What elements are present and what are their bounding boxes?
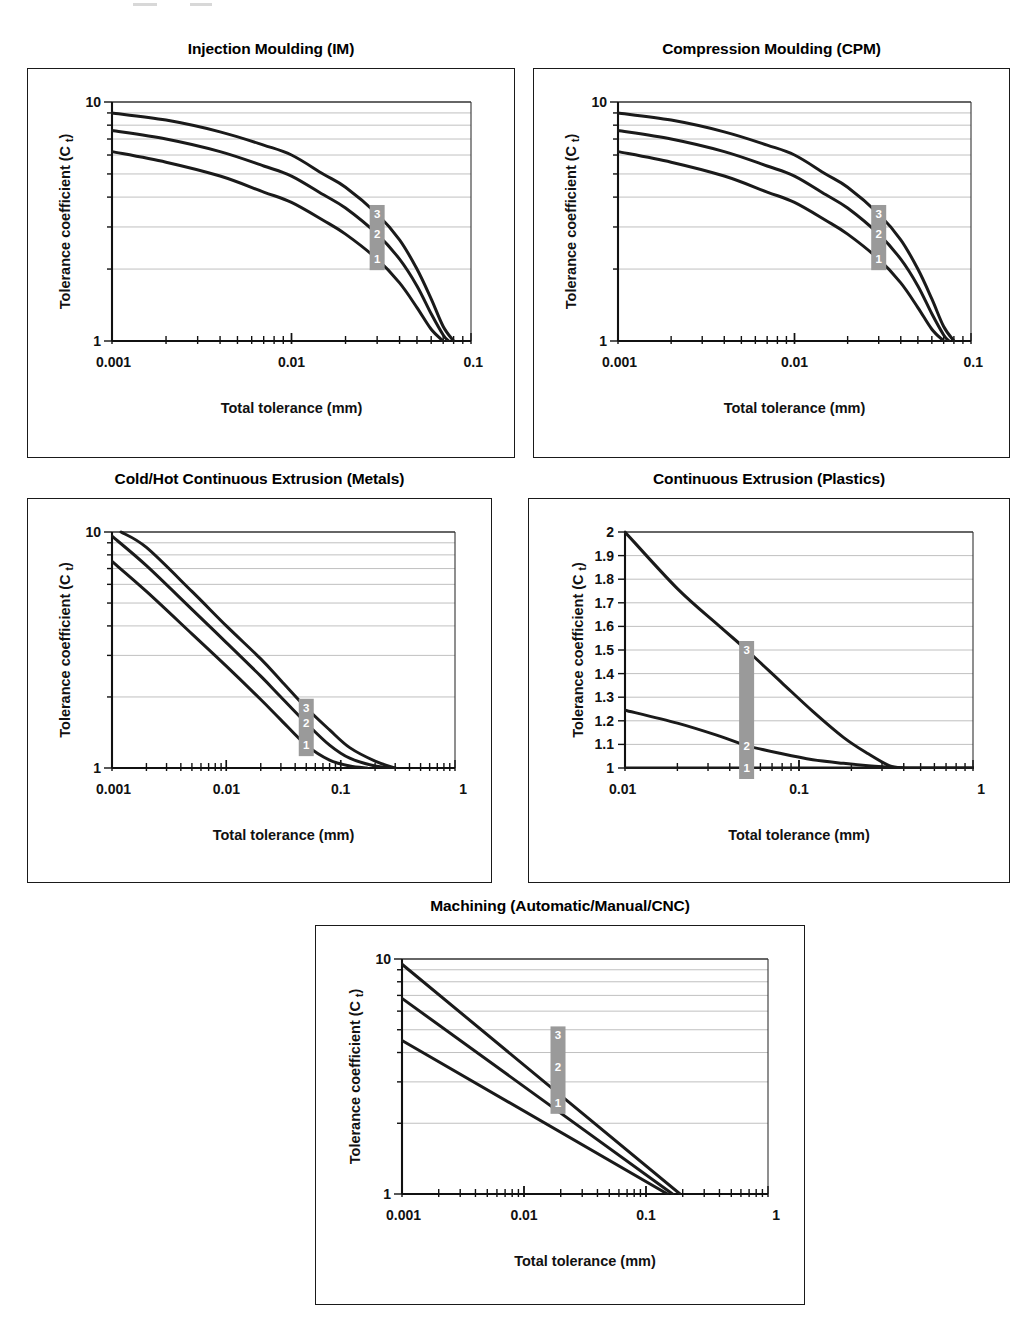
chart-title-compression-moulding: Compression Moulding (CPM) [533,40,1010,58]
y-tick-label: 1.6 [595,618,615,634]
series-marker-label-3: 3 [555,1029,561,1041]
y-axis-title: Tolerance coefficient (C t) [570,562,588,738]
x-tick-label: 0.01 [510,1207,537,1223]
x-tick-label: 0.001 [96,354,131,370]
y-tick-label: 1.4 [595,666,615,682]
series-marker-label-3: 3 [303,702,309,714]
chart-frame-machining: 1100.0010.010.11Total tolerance (mm)Tole… [315,925,805,1305]
x-tick-label: 1 [459,781,467,797]
y-tick-label: 10 [85,94,101,110]
y-tick-label: 10 [591,94,607,110]
series-marker-label-2: 2 [555,1061,561,1073]
y-tick-label: 1 [599,333,607,349]
x-tick-label: 0.1 [964,354,984,370]
series-line-2 [625,710,973,768]
chart-title-injection-moulding: Injection Moulding (IM) [27,40,515,58]
chart-title-continuous-extrusion-metals: Cold/Hot Continuous Extrusion (Metals) [27,470,492,488]
series-line-3 [402,964,680,1194]
y-tick-label: 1 [93,760,101,776]
y-tick-label: 1 [383,1186,391,1202]
series-line-1 [618,152,944,341]
chart-series-group [112,532,395,768]
y-axis-title: Tolerance coefficient (C t) [57,134,75,310]
x-tick-label: 0.1 [789,781,809,797]
series-marker-label-2: 2 [743,740,749,752]
y-tick-label: 1.2 [595,713,615,729]
series-marker-label-2: 2 [876,228,882,240]
y-tick-label: 1.9 [595,548,615,564]
y-tick-label: 10 [375,951,391,967]
x-tick-label: 0.001 [96,781,131,797]
x-tick-label: 1 [977,781,985,797]
y-axis-title: Tolerance coefficient (C t) [57,562,75,738]
y-axis-title: Tolerance coefficient (C t) [563,134,581,310]
x-tick-label: 0.01 [213,781,240,797]
series-marker-label-3: 3 [743,644,749,656]
series-marker-label-3: 3 [374,208,380,220]
y-tick-label: 10 [85,524,101,540]
x-axis-title: Total tolerance (mm) [213,827,355,843]
y-tick-label: 2 [606,524,614,540]
series-line-1 [112,152,443,341]
series-line-3 [121,532,395,768]
series-marker-label-1: 1 [743,762,750,774]
series-marker-label-1: 1 [876,253,883,265]
chart-frame-compression-moulding: 1100.0010.010.1Total tolerance (mm)Toler… [533,68,1010,458]
x-tick-label: 0.01 [781,354,808,370]
y-tick-label: 1.7 [595,595,615,611]
series-marker-box: 321 [871,205,886,270]
series-marker-label-1: 1 [555,1097,562,1109]
series-marker-label-1: 1 [374,253,381,265]
y-tick-label: 1.3 [595,689,615,705]
svg-text:Tolerance coefficient (C t): Tolerance coefficient (C t) [563,134,581,310]
chart-canvas-injection-moulding: 1100.0010.010.1Total tolerance (mm)Toler… [28,69,516,459]
y-tick-label: 1 [606,760,614,776]
x-tick-label: 0.01 [278,354,305,370]
x-axis-title: Total tolerance (mm) [514,1253,656,1269]
series-marker-label-1: 1 [303,739,310,751]
chart-frame-injection-moulding: 1100.0010.010.1Total tolerance (mm)Toler… [27,68,515,458]
chart-canvas-compression-moulding: 1100.0010.010.1Total tolerance (mm)Toler… [534,69,1011,459]
series-marker-label-2: 2 [303,717,309,729]
x-tick-label: 0.1 [331,781,351,797]
y-tick-label: 1.5 [595,642,615,658]
series-line-1 [402,1041,667,1195]
series-marker-label-3: 3 [876,208,882,220]
x-tick-label: 0.001 [602,354,637,370]
chart-title-machining: Machining (Automatic/Manual/CNC) [315,897,805,915]
svg-text:Tolerance coefficient (C t): Tolerance coefficient (C t) [57,562,75,738]
x-tick-label: 0.01 [609,781,636,797]
x-tick-label: 0.001 [386,1207,421,1223]
chart-frame-continuous-extrusion-plastics: 11.11.21.31.41.51.61.71.81.920.010.11Tot… [528,498,1010,883]
x-tick-label: 1 [772,1207,780,1223]
chart-canvas-machining: 1100.0010.010.11Total tolerance (mm)Tole… [316,926,806,1306]
x-axis-title: Total tolerance (mm) [728,827,870,843]
series-line-2 [402,998,673,1194]
series-marker-box: 321 [299,699,314,756]
chart-series-group [402,964,680,1194]
x-axis-title: Total tolerance (mm) [724,400,866,416]
x-tick-label: 0.1 [636,1207,656,1223]
figure-root: Injection Moulding (IM)1100.0010.010.1To… [0,0,1033,1321]
svg-text:Tolerance coefficient (C t): Tolerance coefficient (C t) [57,134,75,310]
y-axis-title: Tolerance coefficient (C t) [347,989,365,1165]
series-marker-box: 321 [370,205,385,270]
series-line-1 [112,561,367,768]
x-axis-title: Total tolerance (mm) [221,400,363,416]
series-marker-box: 321 [551,1026,566,1113]
y-tick-label: 1.1 [595,736,615,752]
x-tick-label: 0.1 [464,354,484,370]
svg-text:Tolerance coefficient (C t): Tolerance coefficient (C t) [570,562,588,738]
chart-title-continuous-extrusion-plastics: Continuous Extrusion (Plastics) [528,470,1010,488]
svg-text:Tolerance coefficient (C t): Tolerance coefficient (C t) [347,989,365,1165]
series-marker-label-2: 2 [374,228,380,240]
chart-frame-continuous-extrusion-metals: 1100.0010.010.11Total tolerance (mm)Tole… [27,498,492,883]
chart-canvas-continuous-extrusion-metals: 1100.0010.010.11Total tolerance (mm)Tole… [28,499,493,884]
chart-canvas-continuous-extrusion-plastics: 11.11.21.31.41.51.61.71.81.920.010.11Tot… [529,499,1011,884]
series-marker-box: 321 [739,641,754,779]
y-tick-label: 1 [93,333,101,349]
y-tick-label: 1.8 [595,571,615,587]
